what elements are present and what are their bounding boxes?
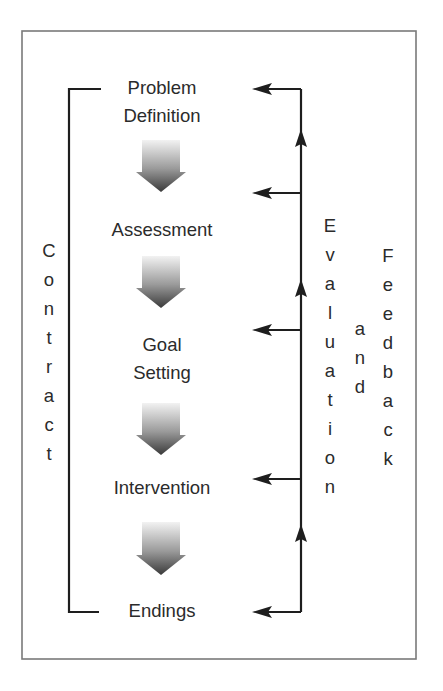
gradient-down-arrow-icon bbox=[136, 256, 186, 308]
gradient-down-arrow-icon bbox=[136, 140, 186, 192]
contract-letter: r bbox=[46, 356, 52, 377]
step-goal-setting: Goal Setting bbox=[133, 334, 191, 383]
step-label-line: Endings bbox=[129, 600, 196, 621]
feedback-label: F e e d b a c k bbox=[382, 245, 394, 469]
contract-letter: n bbox=[44, 298, 54, 319]
step-endings: Endings bbox=[129, 600, 196, 621]
contract-letter: a bbox=[44, 385, 55, 406]
evaluation-letter: t bbox=[327, 389, 332, 410]
contract-letter: C bbox=[42, 240, 55, 261]
and-letter: n bbox=[355, 347, 365, 368]
feedback-loop bbox=[262, 89, 301, 612]
step-problem-definition: Problem Definition bbox=[123, 77, 200, 126]
contract-letter: t bbox=[46, 327, 51, 348]
evaluation-letter: u bbox=[325, 331, 335, 352]
step-label-line: Definition bbox=[123, 105, 200, 126]
step-label-line: Problem bbox=[128, 77, 197, 98]
and-letter: a bbox=[355, 318, 366, 339]
step-assessment: Assessment bbox=[112, 219, 213, 240]
evaluation-letter: i bbox=[328, 418, 332, 439]
step-label-line: Goal bbox=[142, 334, 181, 355]
feedback-letter: e bbox=[383, 274, 393, 295]
feedback-letter: k bbox=[383, 448, 393, 469]
contract-label: C o n t r a c t bbox=[42, 240, 55, 464]
diagram-frame bbox=[22, 31, 416, 659]
feedback-letter: F bbox=[382, 245, 393, 266]
step-label-line: Assessment bbox=[112, 219, 213, 240]
step-label-line: Intervention bbox=[114, 477, 211, 498]
evaluation-letter: l bbox=[328, 302, 332, 323]
gradient-down-arrow-icon bbox=[136, 403, 186, 455]
feedback-letter: e bbox=[383, 303, 393, 324]
feedback-letter: a bbox=[383, 390, 394, 411]
evaluation-letter: n bbox=[325, 476, 335, 497]
evaluation-letter: o bbox=[325, 447, 335, 468]
feedback-letter: c bbox=[383, 419, 392, 440]
process-diagram: C o n t r a c t Problem Definition Asses… bbox=[0, 0, 443, 691]
evaluation-letter: E bbox=[324, 215, 336, 236]
contract-letter: c bbox=[44, 414, 53, 435]
contract-letter: t bbox=[46, 443, 51, 464]
contract-letter: o bbox=[44, 269, 54, 290]
gradient-down-arrow-icon bbox=[136, 522, 186, 575]
feedback-letter: b bbox=[383, 361, 393, 382]
step-intervention: Intervention bbox=[114, 477, 211, 498]
evaluation-letter: a bbox=[325, 360, 336, 381]
feedback-letter: d bbox=[383, 332, 393, 353]
evaluation-letter: a bbox=[325, 273, 336, 294]
and-label: a n d bbox=[355, 318, 366, 397]
evaluation-label: E v a l u a t i o n bbox=[324, 215, 336, 497]
evaluation-letter: v bbox=[325, 244, 335, 265]
step-label-line: Setting bbox=[133, 362, 191, 383]
contract-bracket bbox=[69, 89, 101, 612]
and-letter: d bbox=[355, 376, 365, 397]
